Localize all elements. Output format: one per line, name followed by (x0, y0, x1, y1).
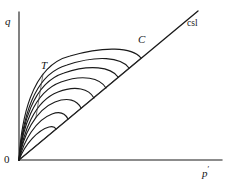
critical-point-label: C (138, 34, 145, 45)
y-axis-label: q (5, 16, 11, 27)
yield-loci-group (19, 49, 141, 160)
x-axis-label: p′ (202, 166, 209, 179)
origin-label: 0 (4, 154, 10, 165)
critical-state-line-figure: q p′ 0 csl C T (0, 0, 232, 186)
axes-group (19, 12, 222, 160)
csl-label: csl (187, 19, 198, 29)
x-axis-label-prime: ′ (208, 165, 210, 174)
yield-locus-7 (19, 59, 129, 160)
yield-locus-8 (19, 49, 141, 160)
tension-line-label: T (41, 60, 47, 71)
